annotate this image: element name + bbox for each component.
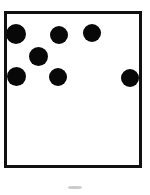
figure-root (0, 0, 150, 195)
dot-top-right-icon (83, 24, 101, 42)
faint-mark-below-box (68, 186, 82, 189)
dot-mid-middle-icon (49, 68, 67, 86)
dot-mid-left-icon (7, 67, 26, 86)
dot-mid-right-icon (121, 69, 139, 87)
dot-top-left-icon (6, 24, 26, 44)
dot-top-middle-icon (50, 26, 68, 44)
dot-center-upper-icon (29, 47, 48, 66)
